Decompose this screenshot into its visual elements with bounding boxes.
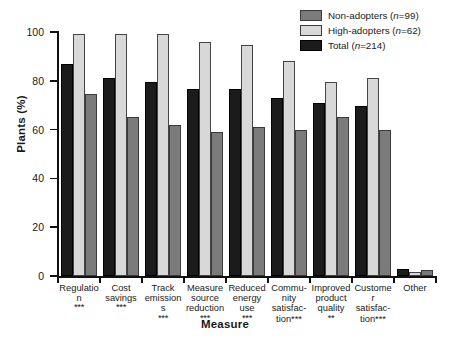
legend-swatch — [300, 10, 322, 21]
bar-group — [142, 32, 184, 276]
x-axis-label-line: Commu- — [269, 283, 309, 293]
bar-high — [73, 34, 85, 276]
x-tick-mark — [352, 276, 394, 283]
bar-high — [367, 78, 379, 276]
y-tick-mark — [50, 80, 58, 82]
y-tick-mark — [50, 31, 58, 33]
x-axis-label-line: nity — [269, 293, 309, 303]
bar-total — [355, 106, 367, 276]
bar-total — [61, 64, 73, 276]
x-axis-label-line: Regulation — [59, 283, 99, 303]
bar-total — [397, 269, 409, 276]
x-tick-mark — [394, 276, 436, 283]
x-axis-label-line: Cost — [101, 283, 141, 293]
legend-item: High-adopters (n=62) — [300, 25, 421, 36]
legend-label: Non-adopters (n=99) — [328, 10, 419, 21]
significance-marker: *** — [59, 303, 99, 312]
bar-non — [379, 130, 391, 276]
x-axis-label-line: product — [311, 293, 351, 303]
y-tick-mark — [50, 226, 58, 228]
bar-group — [394, 32, 436, 276]
legend-swatch — [300, 40, 322, 51]
y-tick-label: 40 — [12, 172, 44, 184]
bar-high — [157, 34, 169, 276]
x-axis-title: Measure — [0, 318, 450, 330]
x-axis-label-line: Track — [143, 283, 183, 293]
x-axis-label-line: Reduced — [227, 283, 267, 293]
x-tick-mark — [58, 276, 100, 283]
bar-group — [310, 32, 352, 276]
bar-non — [169, 125, 181, 276]
y-tick-label: 60 — [12, 124, 44, 136]
legend-swatch — [300, 25, 322, 36]
x-axis-ticks — [58, 276, 436, 283]
x-tick-mark — [268, 276, 310, 283]
bar-groups — [58, 32, 436, 276]
chart-legend: Non-adopters (n=99)High-adopters (n=62)T… — [300, 10, 421, 51]
legend-label: Total (n=214) — [328, 40, 385, 51]
y-tick-mark — [50, 129, 58, 131]
bar-total — [229, 89, 241, 276]
bar-total — [271, 98, 283, 276]
x-axis-label-line: satisfac- — [353, 303, 393, 313]
y-tick-label: 80 — [12, 75, 44, 87]
bar-group — [268, 32, 310, 276]
legend-label: High-adopters (n=62) — [328, 25, 421, 36]
x-tick-mark — [142, 276, 184, 283]
x-axis-label-line: energy — [227, 293, 267, 303]
bar-chart: Plants (%) 020406080100 Regulation***Cos… — [0, 0, 450, 338]
x-axis-label-line: Improved — [311, 283, 351, 293]
bar-non — [337, 117, 349, 276]
bar-non — [85, 94, 97, 276]
bar-group — [352, 32, 394, 276]
bar-group — [58, 32, 100, 276]
significance-marker: *** — [101, 303, 141, 312]
bar-total — [103, 78, 115, 276]
legend-item: Non-adopters (n=99) — [300, 10, 421, 21]
x-tick-mark — [100, 276, 142, 283]
bar-high — [241, 45, 253, 276]
bar-group — [226, 32, 268, 276]
bar-high — [199, 42, 211, 276]
x-axis-label-line: Customer — [353, 283, 393, 303]
y-tick-label: 0 — [12, 270, 44, 282]
x-tick-mark — [226, 276, 268, 283]
bar-total — [313, 103, 325, 276]
y-tick-mark — [50, 178, 58, 180]
bar-non — [295, 130, 307, 276]
legend-item: Total (n=214) — [300, 40, 421, 51]
bar-total — [187, 89, 199, 276]
y-tick-label: 100 — [12, 26, 44, 38]
bar-group — [184, 32, 226, 276]
x-axis-label-line: satisfac- — [269, 303, 309, 313]
bar-high — [325, 82, 337, 276]
bar-non — [127, 117, 139, 276]
x-tick-mark — [310, 276, 352, 283]
y-tick-label: 20 — [12, 221, 44, 233]
bar-group — [100, 32, 142, 276]
bar-high — [283, 61, 295, 276]
bar-non — [211, 132, 223, 276]
bar-total — [145, 82, 157, 276]
x-axis-label-line: Measure — [185, 283, 225, 293]
x-axis-label-line: emissions — [143, 293, 183, 313]
x-tick-mark — [184, 276, 226, 283]
x-axis-label-line: Other — [395, 283, 435, 293]
bar-high — [115, 34, 127, 276]
bar-non — [253, 127, 265, 276]
x-axis-label-line: source — [185, 293, 225, 303]
